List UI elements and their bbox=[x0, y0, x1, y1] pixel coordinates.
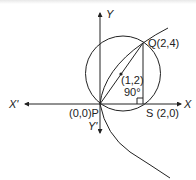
point-q-label: Q(2,4) bbox=[148, 37, 179, 49]
angle-label: 90° bbox=[124, 86, 141, 98]
y-axis-label: Y bbox=[106, 8, 114, 20]
point-p-label: (0,0)P bbox=[69, 107, 99, 119]
right-angle-marker bbox=[137, 98, 143, 104]
x-axis-label: X bbox=[183, 98, 192, 110]
point-s-label: S (2,0) bbox=[146, 107, 179, 119]
center-label: (1,2) bbox=[121, 74, 144, 86]
y-neg-axis-label: Y' bbox=[88, 120, 98, 132]
geometry-diagram: Y Y' X X' Q(2,4) (1,2) 90° (0,0)P S (2,0… bbox=[0, 0, 196, 180]
x-neg-axis-label: X' bbox=[8, 98, 19, 110]
